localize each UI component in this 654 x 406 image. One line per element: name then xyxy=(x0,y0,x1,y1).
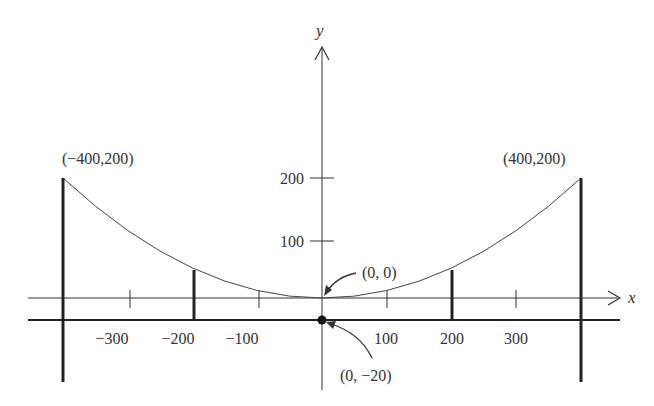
left-top-point-label: (−400,200) xyxy=(62,150,134,168)
x-axis-label: x xyxy=(627,288,636,307)
road-origin-pointer-arrow xyxy=(331,324,372,358)
vertex-pointer-arrow xyxy=(327,273,356,292)
x-tick-label: −200 xyxy=(161,330,194,347)
x-tick-label: 300 xyxy=(504,330,528,347)
y-axis xyxy=(315,47,329,390)
x-tick-label: −300 xyxy=(95,330,128,347)
x-tick-label: −100 xyxy=(225,330,258,347)
x-tick-label: 100 xyxy=(374,330,398,347)
vertex-label: (0, 0) xyxy=(362,264,397,282)
x-tick-label: 200 xyxy=(440,330,464,347)
road-origin-dot xyxy=(318,316,327,325)
x-ticks xyxy=(130,290,516,308)
y-tick-label: 100 xyxy=(280,233,304,250)
right-top-point-label: (400,200) xyxy=(503,150,566,168)
road-origin-arrowhead-icon xyxy=(326,321,336,329)
y-tick-label: 200 xyxy=(280,170,304,187)
road-origin-label: (0, −20) xyxy=(340,367,392,385)
parabola-diagram: x y −300 −200 −100 100 200 300 200 100 (… xyxy=(0,0,654,406)
y-axis-label: y xyxy=(314,21,324,40)
